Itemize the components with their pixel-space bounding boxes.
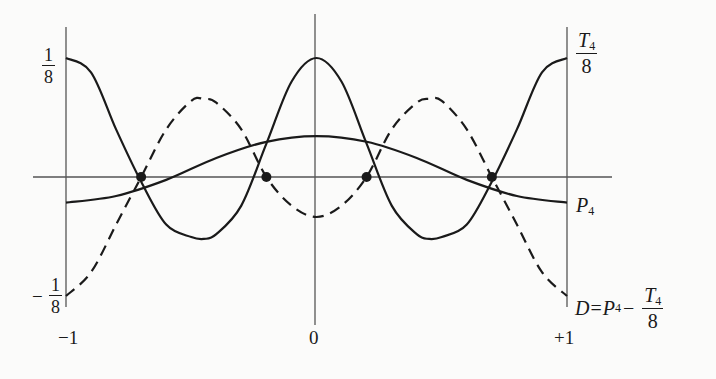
t4-label-denominator: 8 [582, 54, 592, 76]
t4-label: T4 8 [576, 30, 597, 76]
p4-var: P [576, 194, 588, 216]
p4-label: P4 [576, 195, 594, 217]
d-label: D = P4 − T4 8 [575, 285, 663, 331]
equals-sign: = [590, 297, 601, 320]
t4-over-8-curve [66, 58, 567, 239]
p4-sub: 4 [588, 204, 594, 218]
x-tick-label-center: 0 [309, 328, 319, 347]
zero-marker-dot [362, 172, 372, 182]
t4-sub: 4 [589, 39, 595, 53]
minus-sign: − [623, 297, 634, 320]
y-bottom-sign: − [32, 287, 43, 306]
zero-marker-dot [261, 172, 271, 182]
x-tick-label-left: −1 [58, 328, 78, 347]
y-bottom-denominator: 8 [51, 296, 60, 316]
d-var: D [575, 297, 589, 320]
t4-label-numerator: T4 [576, 30, 597, 53]
x-tick-label-right: +1 [554, 328, 574, 347]
d-frac-var: T [644, 284, 655, 306]
y-tick-label-bottom: 1 8 [49, 276, 62, 316]
t4-var: T [578, 29, 589, 51]
d-p-var: P [603, 297, 615, 320]
d-frac-sub: 4 [655, 294, 661, 308]
y-tick-label-top: 1 8 [42, 46, 55, 86]
d-p-sub: 4 [615, 301, 621, 316]
d-frac-numerator: T4 [642, 285, 663, 308]
y-top-numerator: 1 [42, 46, 55, 65]
d-fraction: T4 8 [642, 285, 663, 331]
p4-curve [66, 136, 567, 203]
d-difference-curve [66, 98, 567, 296]
zero-marker-dot [487, 172, 497, 182]
y-bottom-numerator: 1 [49, 276, 62, 295]
zero-marker-dot [136, 172, 146, 182]
y-top-denominator: 8 [44, 66, 53, 86]
d-frac-denominator: 8 [648, 309, 658, 331]
